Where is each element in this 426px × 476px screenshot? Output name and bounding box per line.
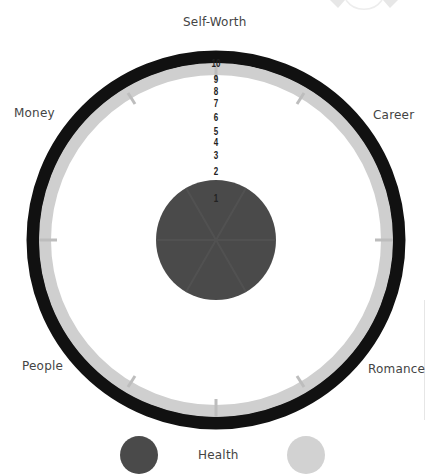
label-career: Career xyxy=(373,108,414,122)
scale-10: 10 xyxy=(212,58,221,69)
scale-6: 6 xyxy=(214,112,218,123)
scale-9: 9 xyxy=(214,74,218,85)
corner-badge xyxy=(330,0,398,9)
scale-2: 2 xyxy=(214,166,218,177)
scale-8: 8 xyxy=(214,86,218,97)
label-people: People xyxy=(22,359,63,373)
scale-7: 7 xyxy=(214,98,218,109)
scale-5: 5 xyxy=(214,126,218,137)
scale-3: 3 xyxy=(214,150,218,161)
legend-dark-dot xyxy=(120,436,158,474)
label-romance: Romance xyxy=(368,362,425,376)
label-self-worth: Self-Worth xyxy=(183,15,247,29)
scale-1: 1 xyxy=(214,193,218,204)
edge-line xyxy=(424,300,425,420)
label-money: Money xyxy=(14,106,55,120)
scale-4: 4 xyxy=(214,137,218,148)
label-health: Health xyxy=(198,448,239,462)
legend-light-dot xyxy=(287,436,325,474)
life-wheel xyxy=(0,0,426,476)
